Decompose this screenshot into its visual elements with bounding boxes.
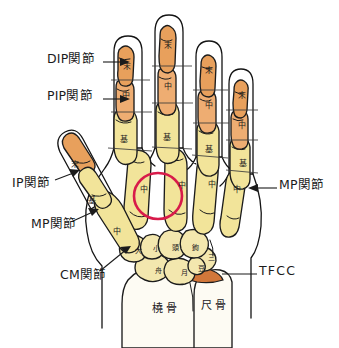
bone-label-trapezium: 大 bbox=[135, 248, 142, 255]
bone-label-thumb-metacarpal: 中 bbox=[113, 228, 121, 236]
bone-label-little-middle: 中 bbox=[238, 122, 246, 130]
bone-label-middle-middle: 中 bbox=[164, 83, 172, 91]
figure-canvas: … .ol { stroke:#1c1c1c; stroke-width:1.3… bbox=[0, 0, 339, 348]
bone-label-index-metacarpal: 中 bbox=[140, 186, 148, 194]
bone-label-index-distal: 末 bbox=[123, 63, 131, 71]
bone-label-index-middle: 中 bbox=[122, 92, 130, 100]
bone-label-trapezoid: 小 bbox=[153, 246, 160, 253]
bone-label-ring-middle: 中 bbox=[205, 102, 213, 110]
bone-label-scaphoid: 舟 bbox=[155, 268, 162, 275]
bone-label-radius: 橈骨 bbox=[152, 303, 180, 314]
bone-label-lunate: 月 bbox=[181, 270, 188, 277]
middle-middle bbox=[158, 67, 176, 115]
bone-label-ring-distal: 末 bbox=[205, 67, 213, 75]
callout-tfcc-label: TFCC bbox=[259, 265, 296, 278]
bone-label-little-distal: 末 bbox=[238, 92, 246, 100]
bone-label-capitate: 頭 bbox=[172, 245, 179, 252]
distal-ring bbox=[200, 55, 216, 97]
arrowhead-mp-little bbox=[248, 184, 258, 192]
callout-mp-little-label: MP関節 bbox=[279, 179, 324, 192]
callout-cm-label: CM関節 bbox=[60, 269, 106, 282]
bone-label-hamate: 鉤 bbox=[192, 245, 199, 252]
callout-mp-thumb-label: MP関節 bbox=[31, 218, 76, 231]
bone-label-triquetrum: 三 bbox=[208, 255, 215, 262]
bone-label-little-metacarpal: 中 bbox=[233, 186, 241, 194]
callout-dip-label: DIP関節 bbox=[47, 53, 95, 66]
bone-label-ring-proximal: 基 bbox=[205, 146, 213, 154]
bone-label-thumb-proximal: 基 bbox=[88, 197, 96, 205]
bone-label-index-proximal: 基 bbox=[120, 136, 128, 144]
bone-label-middle-metacarpal: 中 bbox=[178, 182, 186, 190]
bone-label-little-proximal: 基 bbox=[239, 160, 247, 168]
callout-pip-label: PIP関節 bbox=[47, 90, 93, 103]
bone-label-ulna: 尺骨 bbox=[201, 300, 229, 311]
bone-label-pisiform: 豆 bbox=[198, 266, 205, 273]
bone-label-middle-proximal: 基 bbox=[163, 134, 171, 142]
bone-label-middle-distal: 末 bbox=[164, 42, 172, 50]
bone-label-ring-metacarpal: 中 bbox=[208, 181, 216, 189]
bone-label-thumb-distal: 末 bbox=[71, 161, 79, 169]
callout-ip-label: IP関節 bbox=[12, 177, 50, 190]
